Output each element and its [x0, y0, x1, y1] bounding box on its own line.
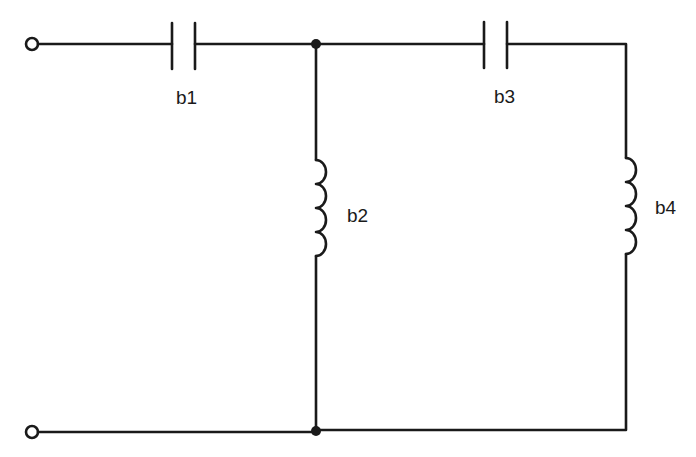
label-b2: b2 — [347, 205, 368, 226]
label-b1: b1 — [176, 87, 197, 108]
wire-top-3 — [507, 44, 626, 158]
input-terminal-top — [26, 38, 38, 50]
inductor-b2 — [316, 160, 326, 256]
capacitor-b3 — [484, 22, 507, 68]
junction-top — [311, 39, 321, 49]
junction-bottom — [311, 426, 321, 436]
capacitor-b1 — [172, 23, 195, 69]
wire-shunt-b4-bottom — [316, 254, 626, 430]
circuit-diagram: b1 b2 b3 b4 — [0, 0, 696, 457]
input-terminal-bottom — [26, 426, 38, 438]
label-b4: b4 — [655, 197, 677, 218]
label-b3: b3 — [494, 86, 515, 107]
inductor-b4 — [626, 158, 636, 254]
